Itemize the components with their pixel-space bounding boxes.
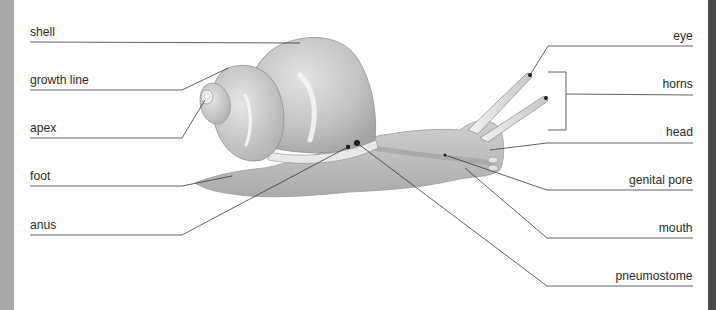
label-apex: apex xyxy=(30,120,56,136)
leader-horns-bracket xyxy=(548,72,566,130)
label-anus: anus xyxy=(30,217,56,233)
label-foot: foot xyxy=(30,168,50,184)
horns xyxy=(468,73,548,142)
label-pneumostome: pneumostome xyxy=(616,268,693,284)
label-eye: eye xyxy=(673,28,693,44)
eye-dot xyxy=(544,96,548,100)
label-horns: horns xyxy=(663,76,693,92)
label-growth-line: growth line xyxy=(30,72,89,88)
label-mouth: mouth xyxy=(659,220,693,236)
shell xyxy=(200,37,378,163)
label-genital-pore: genital pore xyxy=(629,172,693,188)
leader-shell xyxy=(30,42,300,43)
label-head: head xyxy=(666,124,693,140)
leader-eye xyxy=(530,46,693,75)
label-shell: shell xyxy=(30,24,55,40)
leader-head xyxy=(490,143,693,150)
leader-horns xyxy=(566,94,693,95)
snail-illustration xyxy=(0,0,716,310)
